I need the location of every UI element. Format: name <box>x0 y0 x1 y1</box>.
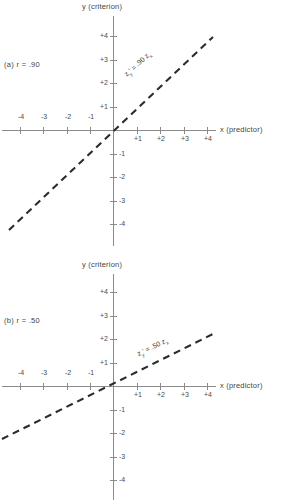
y-axis-title-a: y (criterion) <box>82 2 122 11</box>
y-tick-label-b-pos1: +1 <box>90 359 108 366</box>
y-tick-label-a-pos1: +1 <box>90 103 108 110</box>
chart-panel-a: (a) r = .90 y (criterion) x (predictor) … <box>0 0 281 252</box>
y-tick-label-b-neg1: -1 <box>119 406 137 413</box>
y-tick-label-b-pos2: +2 <box>90 335 108 342</box>
x-axis-title-a: x (predictor) <box>220 125 263 134</box>
x-tick-label-a-pos4: +4 <box>199 135 217 142</box>
x-tick-label-a-pos3: +3 <box>176 135 194 142</box>
y-tick-label-b-neg2: -2 <box>119 429 137 436</box>
plot-canvas-b <box>0 252 281 504</box>
x-tick-label-a-pos2: +2 <box>152 135 170 142</box>
x-tick-label-b-neg4: -4 <box>12 369 30 376</box>
chart-panel-b: (b) r = .50 y (criterion) x (predictor) … <box>0 252 281 504</box>
x-tick-label-b-pos4: +4 <box>199 391 217 398</box>
y-tick-label-a-neg2: -2 <box>119 173 137 180</box>
y-tick-label-a-neg4: -4 <box>119 220 137 227</box>
x-tick-label-a-neg4: -4 <box>12 113 30 120</box>
x-tick-label-b-neg2: -2 <box>59 369 77 376</box>
x-tick-label-a-neg3: -3 <box>35 113 53 120</box>
y-tick-label-a-pos3: +3 <box>90 56 108 63</box>
x-tick-label-b-pos3: +3 <box>176 391 194 398</box>
y-tick-label-a-neg1: -1 <box>119 150 137 157</box>
panel-caption-b: (b) r = .50 <box>4 316 40 325</box>
y-tick-label-a-pos4: +4 <box>90 32 108 39</box>
x-axis-title-b: x (predictor) <box>220 381 263 390</box>
y-tick-label-a-neg3: -3 <box>119 197 137 204</box>
y-axis-title-b: y (criterion) <box>82 260 122 269</box>
y-tick-label-b-pos4: +4 <box>90 288 108 295</box>
x-tick-label-a-neg2: -2 <box>59 113 77 120</box>
x-tick-label-b-neg1: -1 <box>82 369 100 376</box>
x-tick-label-b-pos1: +1 <box>129 391 147 398</box>
y-tick-label-b-neg3: -3 <box>119 453 137 460</box>
x-tick-label-a-neg1: -1 <box>82 113 100 120</box>
y-tick-label-b-neg4: -4 <box>119 476 137 483</box>
panel-caption-a: (a) r = .90 <box>4 60 40 69</box>
x-tick-label-b-neg3: -3 <box>35 369 53 376</box>
y-tick-label-b-pos3: +3 <box>90 312 108 319</box>
y-tick-label-a-pos2: +2 <box>90 79 108 86</box>
x-tick-label-a-pos1: +1 <box>129 135 147 142</box>
x-tick-label-b-pos2: +2 <box>152 391 170 398</box>
